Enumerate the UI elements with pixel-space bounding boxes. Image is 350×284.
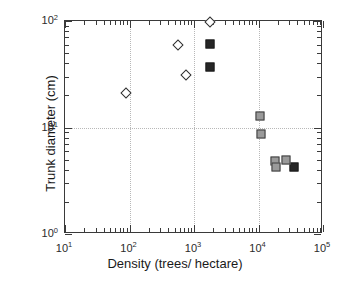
- y-tick-major: [65, 234, 72, 235]
- x-tick-major: [259, 225, 260, 232]
- y-tick-minor: [317, 53, 321, 54]
- y-tick-label-2: 102: [42, 14, 58, 27]
- x-tick-minor: [244, 228, 245, 232]
- y-tick-minor: [65, 132, 69, 133]
- x-tick-minor: [96, 21, 97, 25]
- x-tick-minor: [123, 228, 124, 232]
- y-tick-minor: [65, 138, 69, 139]
- x-tick-minor: [304, 228, 305, 232]
- x-tick-minor: [127, 21, 128, 25]
- x-tick-minor: [289, 228, 290, 232]
- y-tick-label-0: 100: [42, 227, 58, 240]
- y-tick-minor: [317, 31, 321, 32]
- y-tick-minor: [317, 170, 321, 171]
- x-tick-major: [259, 21, 260, 28]
- x-tick-minor: [175, 228, 176, 232]
- y-tick-major: [65, 128, 72, 129]
- x-tick-minor: [120, 21, 121, 25]
- x-tick-minor: [84, 228, 85, 232]
- x-tick-minor: [160, 21, 161, 25]
- data-point-gray-square-3: [271, 162, 280, 171]
- plot-area: [64, 20, 322, 233]
- gridline-vertical: [259, 21, 260, 232]
- x-tick-label-3: 104: [249, 241, 265, 254]
- y-tick-minor: [65, 53, 69, 54]
- x-tick-minor: [168, 21, 169, 25]
- y-tick-label-1: 101: [42, 120, 58, 133]
- x-tick-label-0: 101: [56, 241, 72, 254]
- x-tick-minor: [188, 228, 189, 232]
- data-point-filled-dark-square-1: [206, 62, 215, 71]
- x-tick-minor: [115, 228, 116, 232]
- x-tick-minor: [184, 21, 185, 25]
- x-tick-minor: [233, 21, 234, 25]
- data-point-open-diamond-3: [204, 17, 215, 28]
- x-tick-major: [65, 21, 66, 28]
- x-tick-major: [130, 225, 131, 232]
- y-tick-minor: [65, 202, 69, 203]
- x-tick-minor: [239, 228, 240, 232]
- x-tick-minor: [313, 228, 314, 232]
- y-tick-minor: [65, 26, 69, 27]
- y-tick-minor: [317, 63, 321, 64]
- x-tick-minor: [191, 228, 192, 232]
- x-tick-minor: [184, 228, 185, 232]
- x-tick-minor: [149, 21, 150, 25]
- data-point-gray-square-0: [255, 112, 264, 121]
- x-tick-minor: [297, 228, 298, 232]
- y-tick-major: [314, 128, 321, 129]
- y-tick-minor: [65, 31, 69, 32]
- y-tick-major: [314, 21, 321, 22]
- y-tick-minor: [317, 45, 321, 46]
- y-tick-minor: [317, 151, 321, 152]
- y-tick-minor: [317, 202, 321, 203]
- x-tick-minor: [317, 228, 318, 232]
- y-tick-minor: [317, 160, 321, 161]
- x-tick-label-4: 105: [314, 241, 330, 254]
- x-tick-minor: [249, 21, 250, 25]
- x-tick-minor: [256, 21, 257, 25]
- x-tick-minor: [104, 228, 105, 232]
- x-tick-minor: [191, 21, 192, 25]
- y-tick-minor: [65, 95, 69, 96]
- x-tick-minor: [180, 228, 181, 232]
- x-tick-minor: [252, 228, 253, 232]
- x-tick-minor: [249, 228, 250, 232]
- x-tick-minor: [110, 228, 111, 232]
- data-point-gray-square-1: [256, 130, 265, 139]
- x-tick-minor: [225, 228, 226, 232]
- y-tick-major: [65, 21, 72, 22]
- y-tick-minor: [65, 183, 69, 184]
- y-tick-minor: [317, 144, 321, 145]
- y-tick-minor: [317, 95, 321, 96]
- x-tick-minor: [180, 21, 181, 25]
- x-tick-minor: [225, 21, 226, 25]
- x-tick-minor: [278, 228, 279, 232]
- y-tick-minor: [65, 170, 69, 171]
- y-tick-minor: [65, 63, 69, 64]
- x-tick-minor: [252, 21, 253, 25]
- x-tick-minor: [309, 228, 310, 232]
- x-tick-minor: [304, 21, 305, 25]
- x-tick-minor: [289, 21, 290, 25]
- x-tick-label-2: 103: [185, 241, 201, 254]
- y-tick-minor: [317, 37, 321, 38]
- scatter-chart-figure: Trunk diameter (cm) Density (trees/ hect…: [0, 0, 350, 284]
- x-tick-minor: [104, 21, 105, 25]
- x-tick-major: [194, 225, 195, 232]
- x-tick-minor: [110, 21, 111, 25]
- x-tick-minor: [297, 21, 298, 25]
- x-tick-major: [130, 21, 131, 28]
- x-tick-minor: [175, 21, 176, 25]
- y-tick-minor: [65, 77, 69, 78]
- x-tick-minor: [149, 228, 150, 232]
- x-tick-minor: [320, 228, 321, 232]
- gridline-horizontal: [65, 128, 321, 129]
- x-tick-minor: [115, 21, 116, 25]
- x-axis-title: Density (trees/ hectare): [0, 256, 350, 271]
- data-point-gray-square-4: [282, 155, 291, 164]
- x-tick-minor: [188, 21, 189, 25]
- x-tick-minor: [239, 21, 240, 25]
- x-tick-minor: [244, 21, 245, 25]
- x-tick-minor: [278, 21, 279, 25]
